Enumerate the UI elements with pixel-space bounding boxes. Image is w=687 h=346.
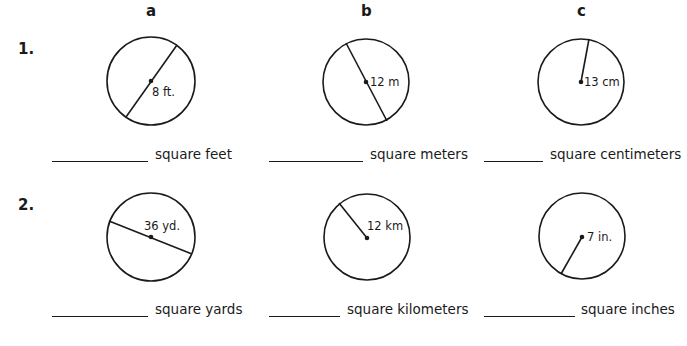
answer-blank-1a[interactable] [52,161,148,162]
answer-blank-1b[interactable] [269,161,363,162]
unit-label-1b: square meters [370,146,468,162]
unit-label-2b: square kilometers [347,301,469,317]
measure-label-2c: 7 in. [587,230,612,244]
circle-figures [0,0,687,346]
measure-label-1b: 12 m [370,75,400,89]
unit-label-1a: square feet [155,146,232,162]
radius-2c [561,237,582,274]
center-dot-2b [365,236,370,241]
radius-2b [339,203,367,238]
center-dot-2c [580,235,585,240]
measure-label-1c: 13 cm [584,75,620,89]
center-dot-1c [579,80,584,85]
answer-blank-2c[interactable] [484,316,575,317]
answer-blank-1c[interactable] [484,161,543,162]
center-dot-1a [149,79,154,84]
unit-label-2a: square yards [155,301,242,317]
unit-label-2c: square inches [581,301,675,317]
answer-blank-2a[interactable] [52,316,148,317]
measure-label-2a: 36 yd. [144,219,180,233]
unit-label-1c: square centimeters [550,146,681,162]
answer-blank-2b[interactable] [269,316,340,317]
measure-label-2b: 12 km [367,219,403,233]
measure-label-1a: 8 ft. [152,85,175,99]
center-dot-1b [364,80,369,85]
center-dot-2a [149,235,154,240]
